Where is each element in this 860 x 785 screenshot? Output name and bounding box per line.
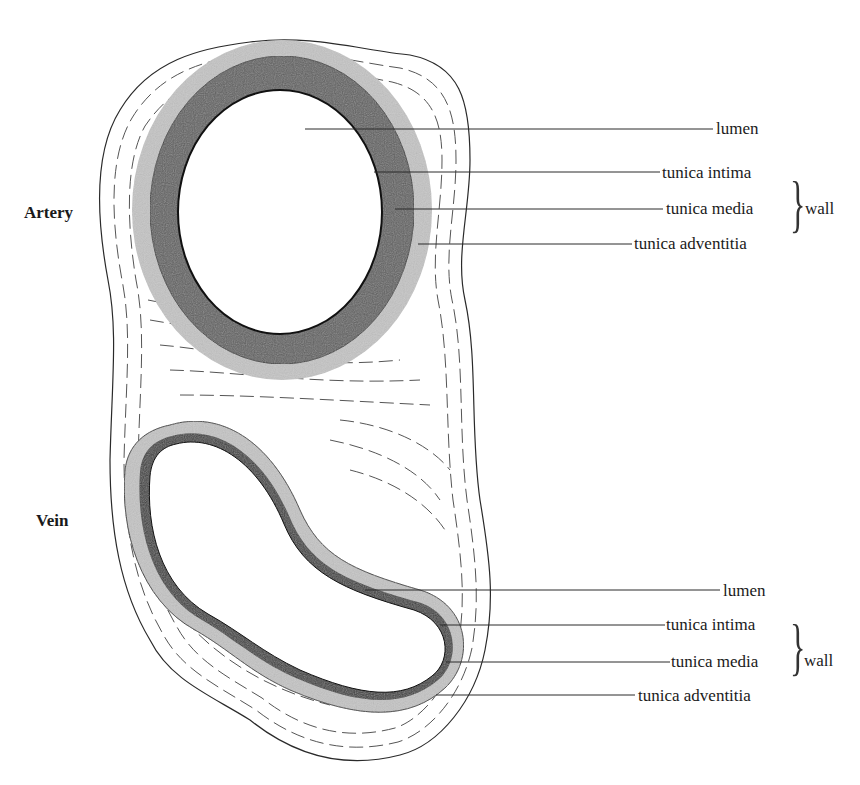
vein-media-label: tunica media xyxy=(671,653,758,670)
artery-lumen xyxy=(178,90,382,334)
vein-adventitia-label: tunica adventitia xyxy=(638,687,751,704)
artery-side-label: Artery xyxy=(24,204,73,221)
artery-cross-section xyxy=(132,40,432,380)
artery-lumen-label: lumen xyxy=(716,120,759,137)
vein-intima-label: tunica intima xyxy=(666,616,755,633)
artery-wall-label: wall xyxy=(805,200,834,217)
vein-side-label: Vein xyxy=(36,512,68,529)
vein-wall-label: wall xyxy=(804,652,833,669)
artery-adventitia-label: tunica adventitia xyxy=(634,235,747,252)
artery-media-label: tunica media xyxy=(666,200,753,217)
artery-intima-label: tunica intima xyxy=(662,164,751,181)
artery-wall-brace-icon: } xyxy=(790,172,805,236)
vein-lumen-label: lumen xyxy=(723,582,766,599)
